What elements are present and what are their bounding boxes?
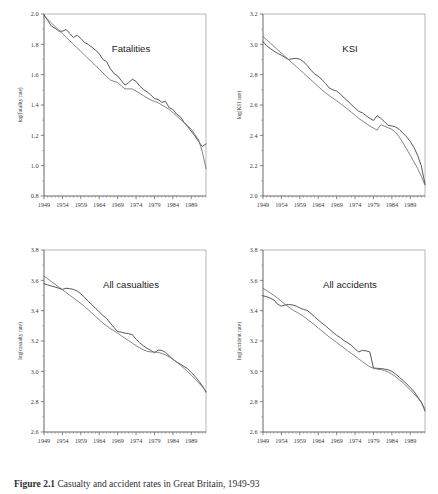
y-tick-label: 2.8 [250,71,258,78]
y-tick-label: 3.2 [250,337,258,344]
x-tick-label: 1959 [75,201,87,208]
x-tick-label: 1984 [386,437,398,444]
x-tick-label: 1989 [404,437,416,444]
panel-all-accidents: 2.62.83.03.23.43.63.81949195419591964196… [219,236,438,472]
caption-label: Figure [14,479,41,489]
panel-title: Fatalities [112,43,151,54]
y-tick-label: 1.2 [31,132,39,139]
x-tick-label: 1989 [185,201,197,208]
y-tick-label: 1.6 [31,71,39,78]
series-fitted-trend [263,288,425,409]
y-tick-label: 3.0 [250,41,258,48]
x-tick-label: 1969 [330,201,342,208]
y-tick-label: 2.2 [250,162,258,169]
y-tick-label: 3.8 [250,246,258,253]
panel-title: KSI [342,43,357,54]
x-tick-label: 1959 [294,437,306,444]
x-tick-label: 1954 [56,437,68,444]
y-tick-label: 3.2 [250,10,258,17]
series-fitted-trend [263,36,425,185]
figure-caption: Figure 2.1 Casualty and accident rates i… [14,478,426,490]
y-tick-label: 1.8 [31,41,39,48]
chart-all-accidents: 2.62.83.03.23.43.63.81949195419591964196… [219,236,438,472]
y-tick-label: 3.6 [31,277,39,284]
y-tick-label: 2.6 [250,428,258,435]
y-tick-label: 2.4 [250,132,258,139]
y-tick-label: 3.8 [31,246,39,253]
x-tick-label: 1959 [75,437,87,444]
x-tick-label: 1964 [93,201,105,208]
x-tick-label: 1974 [130,437,142,444]
x-tick-label: 1964 [93,437,105,444]
x-tick-label: 1949 [38,201,50,208]
y-axis-title: log(fatality rate) [17,87,24,122]
x-tick-label: 1979 [367,201,379,208]
x-tick-label: 1954 [275,201,287,208]
x-tick-label: 1959 [294,201,306,208]
chart-all-casualties: 2.62.83.03.23.43.63.81949195419591964196… [0,236,219,472]
y-axis-title: log(casualty rate) [17,322,24,360]
series-fitted-trend [44,276,206,391]
y-tick-label: 2.8 [250,398,258,405]
y-axis-title: log(accident rate) [236,322,243,360]
series-fitted-trend [44,16,206,169]
x-tick-label: 1974 [130,201,142,208]
x-tick-label: 1984 [167,437,179,444]
y-tick-label: 3.4 [31,307,39,314]
y-tick-label: 2.0 [31,10,39,17]
y-tick-label: 3.2 [31,337,39,344]
series-observed [263,42,425,185]
x-tick-label: 1954 [56,201,68,208]
y-tick-label: 1.4 [31,101,39,108]
series-observed [263,296,425,411]
panel-grid: 0.81.01.21.41.61.82.01949195419591964196… [0,0,438,472]
x-tick-label: 1949 [257,201,269,208]
x-tick-label: 1979 [367,437,379,444]
y-tick-label: 2.0 [250,192,258,199]
x-tick-label: 1984 [386,201,398,208]
caption-number: 2.1 [43,479,55,489]
y-tick-label: 3.4 [250,307,258,314]
x-tick-label: 1989 [404,201,416,208]
x-tick-label: 1949 [257,437,269,444]
x-tick-label: 1984 [167,201,179,208]
x-tick-label: 1979 [148,201,160,208]
series-observed [44,15,206,147]
x-tick-label: 1964 [312,437,324,444]
y-tick-label: 0.8 [31,192,39,199]
x-tick-label: 1969 [111,437,123,444]
x-tick-label: 1974 [349,437,361,444]
chart-ksi: 2.02.22.42.62.83.03.21949195419591964196… [219,0,438,236]
x-tick-label: 1974 [349,201,361,208]
panel-ksi: 2.02.22.42.62.83.03.21949195419591964196… [219,0,438,236]
panel-fatalities: 0.81.01.21.41.61.82.01949195419591964196… [0,0,219,236]
y-tick-label: 1.0 [31,162,39,169]
panel-title: All casualties [103,279,159,290]
y-tick-label: 2.6 [250,101,258,108]
y-tick-label: 3.0 [31,368,39,375]
y-tick-label: 2.8 [31,398,39,405]
y-tick-label: 3.6 [250,277,258,284]
x-tick-label: 1969 [330,437,342,444]
panel-title: All accidents [323,279,377,290]
x-tick-label: 1979 [148,437,160,444]
x-tick-label: 1989 [185,437,197,444]
x-tick-label: 1954 [275,437,287,444]
x-tick-label: 1964 [312,201,324,208]
y-axis-title: log(KSI rate) [236,91,243,120]
panel-all-casualties: 2.62.83.03.23.43.63.81949195419591964196… [0,236,219,472]
y-tick-label: 3.0 [250,368,258,375]
x-tick-label: 1969 [111,201,123,208]
chart-fatalities: 0.81.01.21.41.61.82.01949195419591964196… [0,0,219,236]
x-tick-label: 1949 [38,437,50,444]
figure-container: 0.81.01.21.41.61.82.01949195419591964196… [0,0,438,494]
caption-text: Casualty and accident rates in Great Bri… [57,479,259,489]
y-tick-label: 2.6 [31,428,39,435]
